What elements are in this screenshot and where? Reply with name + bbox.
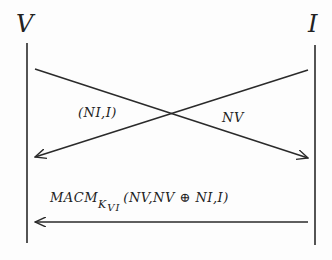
message-nv-label: NV	[222, 110, 244, 125]
macm-main: MACM	[50, 190, 98, 205]
participant-v-label: V	[16, 10, 33, 38]
message-macm-label: MACMKVI(NV,NV ⊕ NI,I)	[50, 190, 229, 205]
participant-i-label: I	[308, 10, 317, 38]
diagram-lines	[0, 0, 332, 260]
macm-subscript: KVI	[98, 198, 120, 211]
message-ni-i-label: (NI,I)	[78, 105, 117, 120]
macm-args: (NV,NV ⊕ NI,I)	[123, 190, 228, 205]
protocol-diagram: V I (NI,I) NV MACMKVI(NV,NV ⊕ NI,I)	[0, 0, 332, 260]
